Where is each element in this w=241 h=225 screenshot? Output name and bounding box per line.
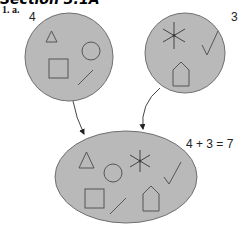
set-b-circle (145, 13, 225, 93)
arrow-a-to-union (73, 101, 84, 134)
set-a-circle (25, 13, 113, 101)
arrow-b-to-union (143, 88, 160, 129)
set-union-diagram (0, 0, 241, 225)
union-ellipse (55, 131, 197, 223)
